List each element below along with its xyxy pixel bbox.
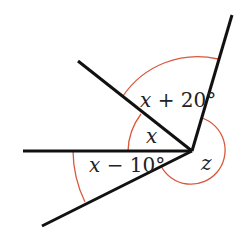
label-x-plus-20: x + 20°	[140, 88, 216, 112]
ray-up-right	[192, 15, 232, 151]
angle-diagram: x + 20° x x − 10° z	[0, 0, 241, 236]
label-x: x	[146, 124, 157, 148]
label-z: z	[200, 151, 212, 175]
arc-x-minus-10	[73, 151, 85, 202]
diagram-canvas: x + 20° x x − 10° z	[0, 0, 241, 236]
label-x-minus-10: x − 10°	[89, 153, 165, 177]
arc-x	[128, 114, 141, 151]
